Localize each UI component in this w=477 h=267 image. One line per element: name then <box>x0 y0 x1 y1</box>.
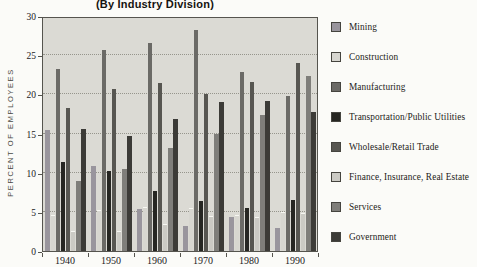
y-tick <box>38 135 42 136</box>
bar-finance-insurance-real-estate-1940 <box>71 231 75 251</box>
bar-government-1990 <box>311 112 315 251</box>
legend-item-government: Government <box>331 231 396 243</box>
bar-construction-1990 <box>281 212 285 251</box>
bar-finance-insurance-real-estate-1960 <box>163 224 167 251</box>
x-tick-label-1970: 1970 <box>180 255 226 266</box>
bar-manufacturing-1950 <box>102 50 106 251</box>
gridline <box>43 54 317 55</box>
bar-manufacturing-1940 <box>56 69 60 251</box>
bar-manufacturing-1980 <box>240 72 244 251</box>
bar-mining-1940 <box>45 130 49 251</box>
legend-swatch <box>331 22 341 32</box>
legend-swatch <box>331 142 341 152</box>
legend-label: Construction <box>349 52 398 62</box>
bar-construction-1970 <box>189 208 193 251</box>
bar-services-1940 <box>76 181 80 252</box>
bar-services-1980 <box>260 115 264 251</box>
legend-swatch <box>331 52 341 62</box>
bar-wholesale-retail-trade-1990 <box>296 63 300 251</box>
x-tick-label-1960: 1960 <box>134 255 180 266</box>
y-tick-label: 20 <box>14 90 36 100</box>
y-tick <box>38 213 42 214</box>
bar-government-1970 <box>219 102 223 251</box>
legend-item-mining: Mining <box>331 21 377 33</box>
legend-swatch <box>331 232 341 242</box>
bar-services-1990 <box>306 76 310 251</box>
bar-finance-insurance-real-estate-1990 <box>301 213 305 251</box>
bar-wholesale-retail-trade-1960 <box>158 83 162 251</box>
x-tick-label-1950: 1950 <box>88 255 134 266</box>
y-tick <box>38 95 42 96</box>
legend-item-services: Services <box>331 201 381 213</box>
bar-construction-1940 <box>51 215 55 251</box>
y-tick-label: 30 <box>14 12 36 22</box>
x-tick <box>318 253 319 257</box>
x-tick-label-1980: 1980 <box>226 255 272 266</box>
bar-services-1960 <box>168 148 172 251</box>
legend-swatch <box>331 82 341 92</box>
legend-item-transportation-public-utilities: Transportation/Public Utilities <box>331 111 465 123</box>
y-tick <box>38 17 42 18</box>
bar-government-1980 <box>265 101 269 251</box>
y-tick <box>38 174 42 175</box>
bar-finance-insurance-real-estate-1950 <box>117 231 121 251</box>
y-tick-label: 0 <box>14 247 36 257</box>
bar-construction-1960 <box>143 207 147 251</box>
bar-construction-1980 <box>235 215 239 251</box>
bar-transportation-public-utilities-1980 <box>245 208 249 251</box>
bar-manufacturing-1960 <box>148 43 152 251</box>
legend-label: Government <box>349 232 396 242</box>
legend-swatch <box>331 112 341 122</box>
bar-wholesale-retail-trade-1970 <box>204 94 208 251</box>
bar-government-1940 <box>81 129 85 251</box>
bar-wholesale-retail-trade-1940 <box>66 108 70 251</box>
x-tick-label-1940: 1940 <box>42 255 88 266</box>
y-tick-label: 5 <box>14 208 36 218</box>
y-tick-label: 25 <box>14 51 36 61</box>
plot-area <box>42 17 318 252</box>
legend-label: Services <box>349 202 381 212</box>
bar-construction-1950 <box>97 210 101 251</box>
legend-label: Mining <box>349 22 377 32</box>
legend-label: Transportation/Public Utilities <box>349 112 465 122</box>
x-tick-label-1990: 1990 <box>272 255 318 266</box>
chart-title: (By Industry Division) <box>32 0 278 10</box>
legend-label: Finance, Insurance, Real Estate <box>349 172 469 182</box>
bar-manufacturing-1970 <box>194 30 198 251</box>
legend-label: Manufacturing <box>349 82 406 92</box>
bar-services-1950 <box>122 169 126 251</box>
legend-item-wholesale-retail-trade: Wholesale/Retail Trade <box>331 141 439 153</box>
bar-transportation-public-utilities-1940 <box>61 162 65 251</box>
legend-item-construction: Construction <box>331 51 398 63</box>
bar-wholesale-retail-trade-1980 <box>250 82 254 251</box>
bar-transportation-public-utilities-1990 <box>291 200 295 251</box>
y-tick-label: 15 <box>14 130 36 140</box>
bar-mining-1990 <box>275 228 279 252</box>
bar-government-1950 <box>127 136 131 251</box>
y-tick <box>38 56 42 57</box>
bar-finance-insurance-real-estate-1970 <box>209 216 213 251</box>
bar-mining-1950 <box>91 166 95 251</box>
bar-mining-1980 <box>229 217 233 251</box>
bar-finance-insurance-real-estate-1980 <box>255 217 259 251</box>
gridline <box>43 93 317 94</box>
bar-transportation-public-utilities-1960 <box>153 191 157 251</box>
bar-mining-1960 <box>137 209 141 251</box>
y-tick-label: 10 <box>14 169 36 179</box>
bar-transportation-public-utilities-1950 <box>107 171 111 251</box>
bar-government-1960 <box>173 119 177 251</box>
legend-swatch <box>331 172 341 182</box>
bar-transportation-public-utilities-1970 <box>199 201 203 251</box>
legend-label: Wholesale/Retail Trade <box>349 142 439 152</box>
bar-manufacturing-1990 <box>286 96 290 251</box>
legend-item-finance-insurance-real-estate: Finance, Insurance, Real Estate <box>331 171 469 183</box>
bar-services-1970 <box>214 134 218 251</box>
bar-mining-1970 <box>183 226 187 251</box>
legend-swatch <box>331 202 341 212</box>
legend-item-manufacturing: Manufacturing <box>331 81 406 93</box>
bar-wholesale-retail-trade-1950 <box>112 89 116 251</box>
